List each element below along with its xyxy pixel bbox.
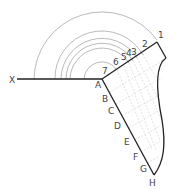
label-4: 4 [126,48,132,58]
label-7: 7 [102,66,108,76]
development-outline [17,42,166,175]
label-b: B [102,94,108,104]
label-2: 2 [142,39,148,49]
label-e: E [124,137,130,147]
label-x: X [9,75,15,85]
label-a: A [95,80,102,90]
label-h: H [149,178,156,188]
diagram-canvas: X A 1 2 3 4 5 6 7 B C D E F G H [0,0,176,190]
arc-1 [34,12,157,79]
label-f: F [133,152,138,162]
label-3: 3 [131,47,137,57]
label-g: G [140,164,147,174]
label-c: C [108,106,114,116]
label-6: 6 [113,57,119,67]
edge-a-h [102,79,154,175]
curved-edge [154,58,166,175]
label-5: 5 [121,52,127,62]
edge-top-right [157,42,166,58]
label-1: 1 [158,30,164,40]
label-d: D [114,121,121,131]
concentric-arcs [34,12,157,79]
